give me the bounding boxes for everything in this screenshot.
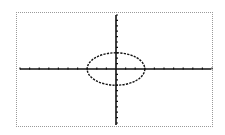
graph-plot xyxy=(0,0,225,135)
axes xyxy=(20,15,212,125)
